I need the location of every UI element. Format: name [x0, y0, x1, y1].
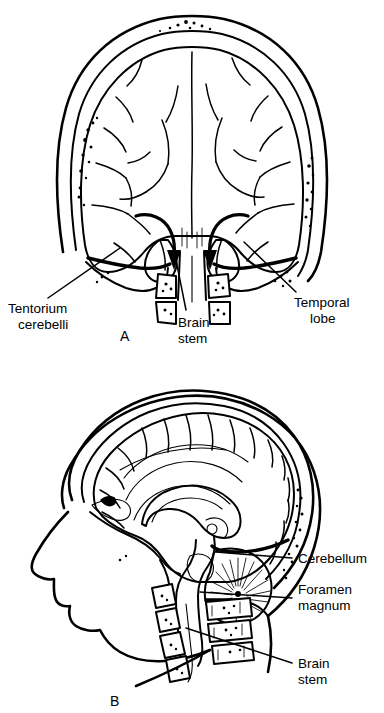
- label-foramen-line1: Foramen: [298, 582, 352, 597]
- tentorium-left-a: [88, 258, 170, 268]
- panel-b-sagittal: Cerebellum Foramen magnum Brain stem B: [32, 391, 367, 709]
- label-tentorium-line1: Tentorium: [8, 301, 67, 316]
- diploe-stipple-a: [78, 20, 315, 227]
- tentorium-right-a: [214, 258, 296, 268]
- falx-cerebri-b: [120, 448, 226, 470]
- label-foramen-line2: magnum: [298, 598, 351, 613]
- neck-contour-b: [268, 616, 271, 672]
- herniation-arrow-right-a: [203, 215, 248, 270]
- label-temporal-line1: Temporal: [294, 295, 350, 310]
- panel-a-coronal: Tentorium cerebelli Brain stem Temporal …: [8, 16, 350, 346]
- leader-cerebellum-b: [216, 552, 292, 558]
- gyri-arcs-b: [124, 445, 248, 520]
- herniation-arrow-left-a: [136, 215, 181, 270]
- label-brainstem-b-line1: Brain: [298, 656, 330, 671]
- label-brainstem-a-line2: stem: [178, 331, 207, 346]
- frontal-sinus-b: [100, 496, 116, 506]
- panel-letter-a: A: [120, 328, 130, 344]
- label-cerebellum-b: Cerebellum: [298, 551, 367, 566]
- label-brainstem-b-line2: stem: [298, 672, 327, 687]
- panel-letter-b: B: [110, 693, 119, 709]
- label-tentorium-line2: cerebelli: [18, 317, 68, 332]
- anatomical-figure: Tentorium cerebelli Brain stem Temporal …: [0, 0, 384, 713]
- skull-inner-table-b: [82, 403, 301, 579]
- figure-svg: Tentorium cerebelli Brain stem Temporal …: [0, 0, 384, 713]
- longitudinal-fissure-a: [192, 52, 193, 238]
- massa-intermedia-b: [207, 524, 217, 534]
- label-temporal-line2: lobe: [310, 311, 336, 326]
- anterior-fossa-b: [90, 512, 180, 574]
- label-brainstem-a-line1: Brain: [178, 315, 210, 330]
